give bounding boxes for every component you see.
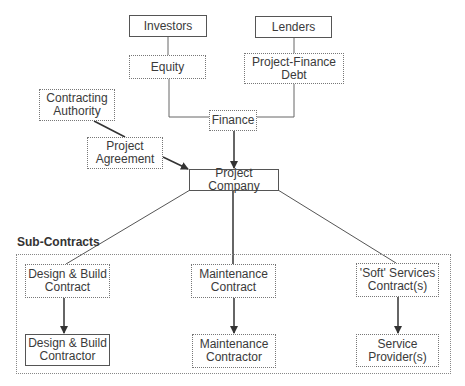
node-finance: Finance: [209, 110, 257, 131]
node-db-contractor: Design & Build Contractor: [25, 334, 110, 366]
node-lenders: Lenders: [255, 16, 332, 38]
node-service-provider: Service Provider(s): [356, 334, 439, 367]
node-contracting-authority: Contracting Authority: [39, 89, 115, 121]
edge-debt-finance: [257, 84, 294, 117]
node-maint-contract: Maintenance Contract: [191, 264, 276, 298]
node-maint-contractor: Maintenance Contractor: [192, 334, 276, 368]
sub-contracts-label: Sub-Contracts: [17, 235, 100, 249]
node-investors: Investors: [129, 15, 207, 37]
node-project-agreement: Project Agreement: [87, 137, 163, 169]
node-equity: Equity: [129, 55, 206, 79]
edge-company-db: [66, 190, 190, 264]
node-project-company: Project Company: [189, 169, 279, 191]
node-soft-contract: 'Soft' Services Contract(s): [356, 263, 439, 297]
edge-agreement-company: [163, 157, 188, 169]
edge-company-soft: [278, 190, 396, 263]
edge-equity-finance: [169, 79, 209, 117]
node-db-contract: Design & Build Contract: [25, 264, 110, 298]
edge-authority-agreement: [94, 121, 125, 137]
node-pf-debt: Project-Finance Debt: [244, 53, 344, 84]
